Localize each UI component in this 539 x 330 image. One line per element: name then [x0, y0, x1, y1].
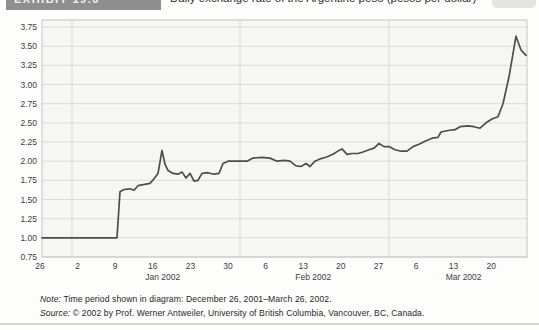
x-tick-label: 2: [75, 261, 80, 271]
y-tick-label: 1.25: [20, 214, 37, 224]
plot-area: [42, 20, 527, 257]
y-tick-label: 3.00: [20, 80, 37, 90]
y-tick-label: 3.75: [20, 22, 37, 32]
x-tick-label: 30: [223, 261, 233, 271]
x-tick-label: 13: [449, 261, 459, 271]
y-tick-label: 1.00: [20, 233, 37, 243]
y-tick-label: 2.75: [20, 99, 37, 109]
note-line: Note: Time period shown in diagram: Dece…: [40, 294, 332, 304]
y-tick-label: 1.50: [20, 195, 37, 205]
x-tick-label: 6: [414, 261, 419, 271]
x-tick-label: 16: [148, 261, 158, 271]
x-tick-label: 13: [298, 261, 308, 271]
x-tick-label: 23: [186, 261, 196, 271]
y-tick-label: 2.25: [20, 137, 37, 147]
y-tick-label: 3.25: [20, 60, 37, 70]
x-tick-label: 20: [336, 261, 346, 271]
month-label: Feb 2002: [295, 272, 331, 282]
x-tick-label: 26: [35, 261, 45, 271]
note-text: Time period shown in diagram: December 2…: [63, 294, 331, 304]
y-tick-label: 3.50: [20, 41, 37, 51]
x-tick-label: 6: [263, 261, 268, 271]
source-prefix: Source:: [40, 308, 70, 318]
y-tick-label: 2.50: [20, 118, 37, 128]
x-tick-label: 27: [374, 261, 384, 271]
exchange-rate-line-chart: 0.751.001.251.501.752.002.252.502.753.00…: [0, 0, 539, 290]
month-label: Mar 2002: [446, 272, 482, 282]
x-tick-label: 9: [113, 261, 118, 271]
x-tick-label: 20: [486, 261, 496, 271]
y-tick-label: 1.75: [20, 175, 37, 185]
note-prefix: Note:: [40, 294, 61, 304]
source-line: Source: © 2002 by Prof. Werner Antweiler…: [40, 308, 424, 318]
source-text: © 2002 by Prof. Werner Antweiler, Univer…: [73, 308, 425, 318]
y-tick-label: 2.00: [20, 156, 37, 166]
month-label: Jan 2002: [145, 272, 180, 282]
page-edge-band: [0, 323, 539, 325]
